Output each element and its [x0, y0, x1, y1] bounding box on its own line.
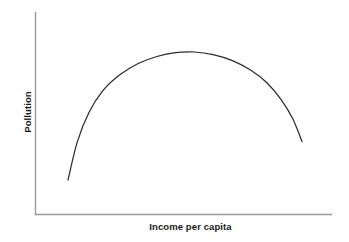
x-axis-label: Income per capita: [0, 222, 349, 232]
chart-figure: Pollution Income per capita: [0, 0, 349, 242]
kuznets-curve-path: [68, 52, 302, 180]
y-axis-label: Pollution: [23, 84, 33, 140]
kuznets-curve-plot: [0, 0, 349, 242]
